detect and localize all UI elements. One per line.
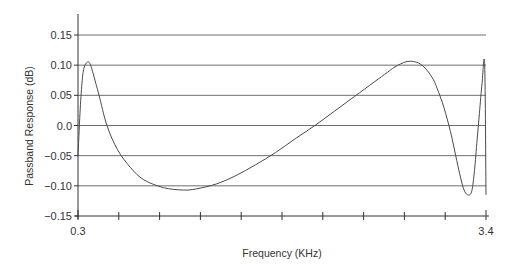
x-tick-label-max: 3.4: [478, 225, 493, 237]
y-tick-label: 0.15: [51, 29, 72, 41]
y-tick-label: 0.05: [51, 89, 72, 101]
y-tick-label: −0.10: [44, 180, 72, 192]
y-tick-label: 0.0: [57, 120, 72, 132]
y-tick-label: −0.05: [44, 150, 72, 162]
x-axis-ticks: [78, 210, 486, 220]
passband-response-chart: 0.150.100.050.0−0.05−0.10−0.15 0.3 3.4 F…: [0, 0, 519, 268]
x-axis-title: Frequency (KHz): [242, 247, 321, 259]
y-axis-ticks: 0.150.100.050.0−0.05−0.10−0.15: [44, 29, 78, 222]
x-tick-label-min: 0.3: [70, 225, 85, 237]
gridlines: [78, 35, 486, 186]
response-curve: [78, 59, 486, 195]
y-tick-label: −0.15: [44, 210, 72, 222]
y-axis-title: Passband Response (dB): [23, 66, 35, 186]
y-tick-label: 0.10: [51, 59, 72, 71]
